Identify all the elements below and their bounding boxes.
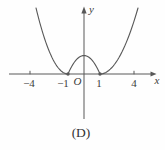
figure-canvas: y x O −4 −1 1 4 (D) (0, 0, 165, 150)
origin-label: O (74, 75, 82, 87)
curve-right-arm (100, 8, 138, 74)
curve-left-arm (36, 8, 68, 74)
y-axis-arrowhead (81, 7, 86, 14)
tangency-dot (66, 72, 69, 75)
tick-label-neg4: −4 (23, 77, 35, 89)
axes-and-curve (9, 7, 157, 120)
tick-label-pos1: 1 (96, 77, 102, 89)
tick-label-pos4: 4 (131, 77, 137, 89)
tangency-dot (98, 72, 101, 75)
function-graph-figure: y x O −4 −1 1 4 (D) (0, 0, 165, 150)
tick-label-neg1: −1 (57, 77, 69, 89)
figure-caption: (D) (72, 125, 91, 140)
y-axis-label: y (88, 3, 94, 15)
x-axis-label: x (154, 74, 160, 86)
